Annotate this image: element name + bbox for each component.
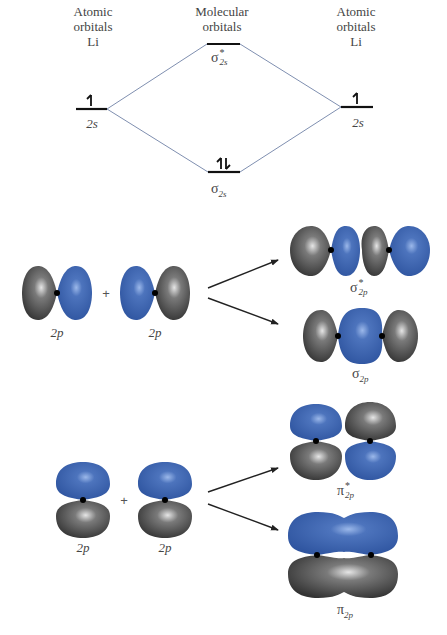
orbital-diagram-graphics: [0, 0, 447, 635]
p-orbital-vertical-right: [138, 462, 192, 538]
spin-up-arrow-icon: [353, 93, 357, 104]
orbital-subscript: 2s: [220, 55, 228, 70]
orbital-subscript: 2p: [360, 374, 369, 384]
orbital-symbol: σ: [211, 50, 219, 65]
orbital-subscript: 2s: [219, 189, 227, 199]
header-line: orbitals: [48, 19, 138, 34]
pi-2p-label: π2p: [337, 602, 367, 623]
pi-row-right-2p-label: 2p: [153, 540, 177, 555]
pi-star-2p-label: π*2p: [337, 483, 367, 498]
sigma-row-left-2p-label: 2p: [45, 325, 69, 340]
molecular-orbitals-header: Molecular orbitals: [177, 4, 267, 34]
pi-2p-orbital: [288, 512, 398, 598]
sigma-star-2p-label: σ*2p: [350, 280, 380, 295]
header-line: orbitals: [177, 19, 267, 34]
header-line: Li: [311, 34, 401, 49]
right-2s-label: 2s: [346, 115, 370, 130]
p-orbital-horizontal-right: [120, 266, 190, 320]
orbital-symbol: π: [337, 483, 344, 498]
sigma-star-2p-orbital: [290, 226, 430, 276]
electron-spin-arrows: [87, 93, 357, 169]
p-orbital-vertical-left: [56, 462, 110, 538]
header-line: Li: [48, 34, 138, 49]
spin-up-arrow-icon: [87, 95, 91, 106]
p-orbital-horizontal-left: [22, 266, 92, 320]
header-line: Molecular: [177, 4, 267, 19]
arrow-to-bonding-icon: [208, 298, 278, 324]
orbital-symbol: σ: [211, 181, 219, 196]
orbital-subscript: 2p: [345, 488, 354, 503]
left-2s-label: 2s: [80, 116, 104, 131]
sigma-2p-orbital: [303, 308, 418, 364]
arrow-to-antibonding-icon: [208, 260, 278, 288]
header-line: Atomic: [48, 4, 138, 19]
sigma-row-plus-sign: +: [100, 286, 112, 301]
sigma-2s-label: σ2s: [211, 181, 241, 202]
left-atomic-orbitals-header: Atomic orbitals Li: [48, 4, 138, 49]
header-line: Atomic: [311, 4, 401, 19]
pi-star-2p-orbital: [290, 402, 396, 480]
arrow-to-antibonding-icon: [208, 468, 278, 492]
pi-row-left-2p-label: 2p: [71, 540, 95, 555]
pi-row-plus-sign: +: [118, 493, 130, 508]
orbital-symbol: σ: [352, 366, 360, 381]
sigma-star-2s-label: σ*2s: [211, 50, 241, 65]
header-line: orbitals: [311, 19, 401, 34]
arrow-to-bonding-icon: [208, 504, 278, 530]
sigma-row-right-2p-label: 2p: [143, 325, 167, 340]
orbital-symbol: σ: [350, 280, 358, 295]
spin-paired-arrows-icon: [217, 158, 230, 169]
right-atomic-orbitals-header: Atomic orbitals Li: [311, 4, 401, 49]
sigma-row-graphics: [22, 226, 430, 364]
sigma-2p-label: σ2p: [352, 366, 382, 387]
orbital-subscript: 2p: [344, 610, 353, 620]
orbital-subscript: 2p: [359, 285, 368, 300]
